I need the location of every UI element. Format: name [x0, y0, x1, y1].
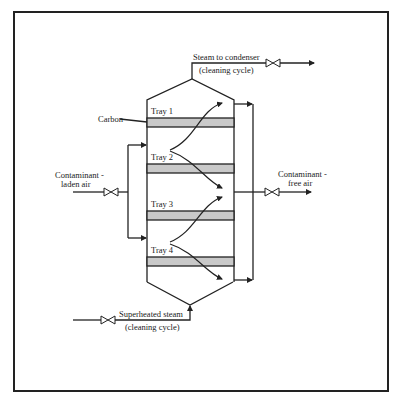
tray-4-label: Tray 4 — [151, 245, 174, 255]
outlet-manifold — [234, 104, 311, 280]
carbon-label: Carbon — [98, 114, 124, 124]
carbon-bed-3 — [147, 211, 234, 220]
carbon-bed-4 — [147, 257, 234, 266]
steam-in-sublabel: (cleaning cycle) — [125, 322, 180, 332]
inlet-sublabel: laden air — [61, 179, 91, 189]
valve-icon — [104, 188, 118, 196]
carbon-bed-1 — [147, 118, 234, 127]
adsorber-diagram: Steam to condenser (cleaning cycle) Carb… — [0, 0, 404, 402]
inlet-manifold — [73, 145, 146, 238]
tray-3-label: Tray 3 — [151, 199, 173, 209]
carbon-leader-line — [120, 119, 147, 122]
steam-out-label: Steam to condenser — [193, 52, 260, 62]
carbon-bed-2 — [147, 164, 234, 173]
outlet-sublabel: free air — [288, 178, 312, 188]
tray-1-label: Tray 1 — [151, 106, 173, 116]
valve-icon — [265, 188, 279, 196]
steam-out-sublabel: (cleaning cycle) — [199, 65, 254, 75]
tray-2-label: Tray 2 — [151, 152, 173, 162]
steam-in-label: Superheated steam — [119, 309, 183, 319]
valve-icon — [266, 59, 280, 67]
valve-icon — [101, 316, 115, 324]
